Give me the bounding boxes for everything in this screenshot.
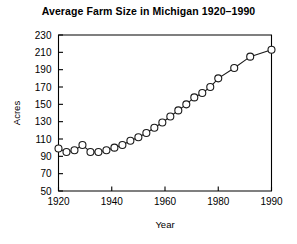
- data-point: [63, 149, 70, 156]
- y-tick-label: 150: [35, 99, 52, 110]
- data-point: [95, 149, 102, 156]
- x-tick-label: 1980: [207, 196, 230, 207]
- data-point: [231, 64, 238, 71]
- data-point: [247, 53, 254, 60]
- plot-frame: [59, 35, 272, 191]
- y-tick-label: 50: [40, 186, 52, 197]
- data-point: [87, 149, 94, 156]
- x-tick-label: 1940: [101, 196, 124, 207]
- y-axis-tick-labels: 507090110130150170190210230: [35, 30, 52, 197]
- data-point: [167, 113, 174, 120]
- data-point: [119, 142, 126, 149]
- y-tick-label: 230: [35, 30, 52, 41]
- data-point: [151, 124, 158, 131]
- data-point: [135, 134, 142, 141]
- data-point: [127, 137, 134, 144]
- y-tick-label: 110: [36, 134, 52, 145]
- data-point: [207, 84, 214, 91]
- data-point: [183, 101, 190, 108]
- data-point: [111, 144, 118, 151]
- y-tick-label: 130: [35, 116, 52, 127]
- data-series-line: [59, 50, 272, 152]
- data-point: [79, 142, 86, 149]
- x-tick-label: 1960: [154, 196, 177, 207]
- data-point: [215, 75, 222, 82]
- chart-figure: Average Farm Size in Michigan 1920–1990 …: [0, 0, 297, 244]
- y-axis-title: Acres: [11, 101, 22, 126]
- data-point: [191, 94, 198, 101]
- data-point: [143, 129, 150, 136]
- y-tick-label: 170: [35, 82, 52, 93]
- data-point: [103, 147, 110, 154]
- x-tick-label: 1920: [47, 196, 70, 207]
- x-axis-tick-labels: 19201940196019801990: [47, 196, 283, 207]
- y-tick-label: 210: [35, 47, 52, 58]
- y-axis-tick-marks: [59, 35, 64, 191]
- y-tick-label: 70: [40, 168, 52, 179]
- x-axis-tick-marks: [59, 187, 272, 192]
- data-point: [71, 147, 78, 154]
- chart-plot-area: 507090110130150170190210230 192019401960…: [0, 0, 297, 244]
- x-axis-title: Year: [155, 219, 174, 230]
- x-tick-label: 1990: [260, 196, 283, 207]
- data-point: [159, 119, 166, 126]
- data-point: [199, 90, 206, 97]
- y-tick-label: 90: [40, 151, 52, 162]
- axis-frame: [59, 35, 272, 191]
- data-point: [268, 46, 275, 53]
- data-point: [55, 145, 62, 152]
- y-tick-label: 190: [35, 64, 52, 75]
- data-point: [175, 107, 182, 114]
